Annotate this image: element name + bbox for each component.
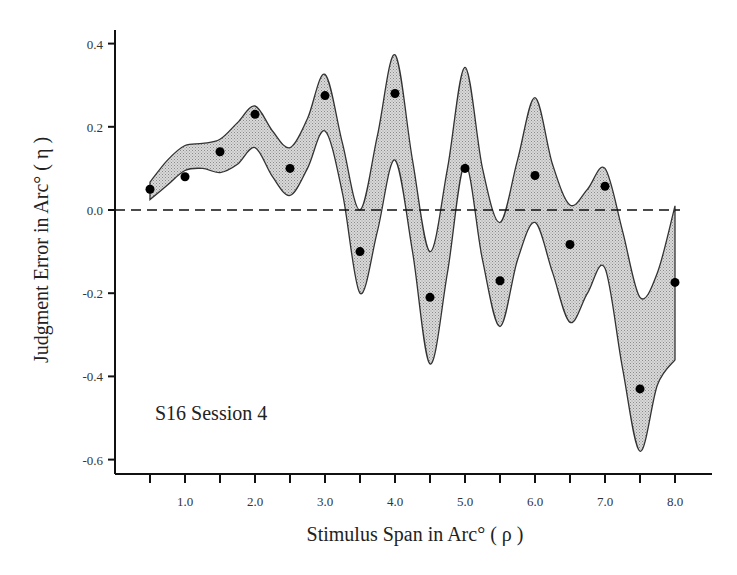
y-axis-title: Judgment Error in Arc° ( η ) xyxy=(30,137,53,363)
confidence-band xyxy=(150,55,675,452)
data-point xyxy=(251,110,260,119)
chart-figure: 0.40.20.0-0.2-0.4-0.61.02.03.04.05.06.07… xyxy=(0,0,737,575)
y-tick-label: -0.2 xyxy=(82,286,103,301)
data-point xyxy=(671,278,680,287)
y-tick-label: -0.6 xyxy=(82,453,103,468)
x-tick-label: 4.0 xyxy=(387,494,403,509)
x-tick-label: 3.0 xyxy=(317,494,333,509)
data-point xyxy=(531,171,540,180)
data-point xyxy=(566,240,575,249)
y-tick-label: -0.4 xyxy=(82,369,103,384)
data-point xyxy=(146,185,155,194)
chart-canvas: 0.40.20.0-0.2-0.4-0.61.02.03.04.05.06.07… xyxy=(0,0,737,575)
data-point xyxy=(496,276,505,285)
x-tick-label: 6.0 xyxy=(527,494,543,509)
data-point xyxy=(601,182,610,191)
confidence-band-area xyxy=(150,55,675,452)
data-point xyxy=(636,384,645,393)
data-point xyxy=(181,172,190,181)
x-axis-title: Stimulus Span in Arc° ( ρ ) xyxy=(307,523,524,546)
x-tick-label: 1.0 xyxy=(177,494,193,509)
y-tick-label: 0.2 xyxy=(87,120,103,135)
x-tick-label: 7.0 xyxy=(597,494,613,509)
data-point xyxy=(321,91,330,100)
session-annotation: S16 Session 4 xyxy=(155,402,267,424)
data-point xyxy=(216,147,225,156)
x-tick-label: 8.0 xyxy=(667,494,683,509)
data-point xyxy=(426,293,435,302)
data-point xyxy=(391,89,400,98)
data-point xyxy=(286,164,295,173)
data-point xyxy=(356,247,365,256)
y-tick-label: 0.4 xyxy=(87,37,104,52)
data-point xyxy=(461,164,470,173)
x-tick-label: 2.0 xyxy=(247,494,263,509)
x-tick-label: 5.0 xyxy=(457,494,473,509)
y-tick-label: 0.0 xyxy=(87,203,103,218)
